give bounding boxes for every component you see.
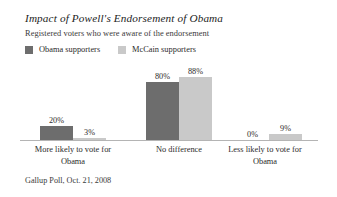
category-axis-labels: More likely to vote for Obama No differe… bbox=[20, 144, 318, 170]
legend-swatch-mccain-icon bbox=[118, 46, 126, 54]
chart-figure: Impact of Powell's Endorsement of Obama … bbox=[0, 0, 337, 197]
bar-obama-1 bbox=[146, 82, 179, 140]
bar-group-less-likely: 0% 9% bbox=[216, 68, 322, 140]
bar-wrap-mccain-0: 3% bbox=[73, 68, 106, 140]
bar-wrap-mccain-2: 9% bbox=[269, 68, 302, 140]
legend-item-obama-supporters: Obama supporters bbox=[25, 45, 100, 55]
chart-subtitle: Registered voters who were aware of the … bbox=[25, 29, 209, 38]
category-label-line-2: Obama bbox=[15, 156, 131, 168]
category-label-more-likely: More likely to vote for Obama bbox=[15, 144, 131, 167]
category-label-line-1: More likely to vote for bbox=[15, 144, 131, 156]
bar-wrap-obama-2: 0% bbox=[236, 68, 269, 140]
category-label-less-likely: Less likely to vote for Obama bbox=[207, 144, 323, 167]
category-label-line-1: Less likely to vote for bbox=[207, 144, 323, 156]
plot-area: 20% 3% 80% 88% bbox=[20, 68, 318, 140]
bar-value-obama-2: 0% bbox=[247, 130, 258, 139]
chart-title: Impact of Powell's Endorsement of Obama bbox=[25, 12, 223, 24]
bar-wrap-obama-0: 20% bbox=[40, 68, 73, 140]
bar-wrap-mccain-1: 88% bbox=[179, 68, 212, 140]
bar-value-obama-1: 80% bbox=[155, 72, 170, 81]
legend-label-obama-supporters: Obama supporters bbox=[39, 45, 100, 55]
category-label-line-2: Obama bbox=[207, 156, 323, 168]
bar-value-mccain-2: 9% bbox=[280, 124, 291, 133]
bar-wrap-obama-1: 80% bbox=[146, 68, 179, 140]
legend-label-mccain-supporters: McCain supporters bbox=[132, 45, 196, 55]
legend-swatch-obama-icon bbox=[25, 46, 33, 54]
bar-value-mccain-0: 3% bbox=[84, 128, 95, 137]
bar-group-more-likely: 20% 3% bbox=[20, 68, 126, 140]
bar-mccain-1 bbox=[179, 77, 212, 140]
bar-obama-0 bbox=[40, 126, 73, 140]
bar-value-mccain-1: 88% bbox=[188, 67, 203, 76]
source-note: Gallup Poll, Oct. 21, 2008 bbox=[25, 176, 111, 185]
legend-item-mccain-supporters: McCain supporters bbox=[118, 45, 196, 55]
bar-value-obama-0: 20% bbox=[49, 116, 64, 125]
x-axis-line bbox=[20, 140, 318, 141]
